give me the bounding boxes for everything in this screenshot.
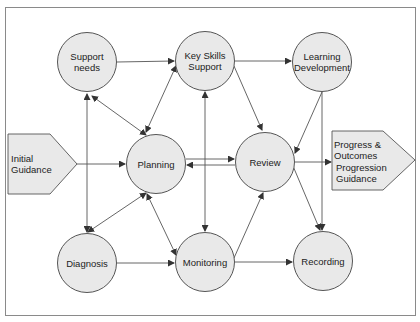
node-review: Review (235, 132, 295, 192)
node-label: Learning Development (294, 51, 350, 73)
node-support-needs: Support needs (57, 32, 117, 92)
process-diagram: Initial Guidance Progress & Outcomes Pro… (0, 0, 420, 322)
node-label: Recording (301, 256, 344, 267)
node-label: Support needs (58, 51, 116, 73)
node-label: Key Skills Support (184, 50, 225, 72)
progress-outcomes-label: Progress & Outcomes (334, 139, 381, 161)
node-recording: Recording (293, 231, 353, 291)
node-label: Review (249, 157, 280, 168)
node-planning: Planning (126, 134, 186, 194)
node-label: Diagnosis (66, 258, 108, 269)
node-diagnosis: Diagnosis (57, 233, 117, 293)
node-label: Monitoring (183, 257, 227, 268)
progression-guidance-label: Progression Guidance (336, 162, 387, 184)
node-learning-development: Learning Development (292, 32, 352, 92)
node-key-skills-support: Key Skills Support (175, 31, 235, 91)
node-label: Planning (138, 159, 175, 170)
node-monitoring: Monitoring (175, 232, 235, 292)
initial-guidance-label: Initial Guidance (11, 153, 52, 175)
